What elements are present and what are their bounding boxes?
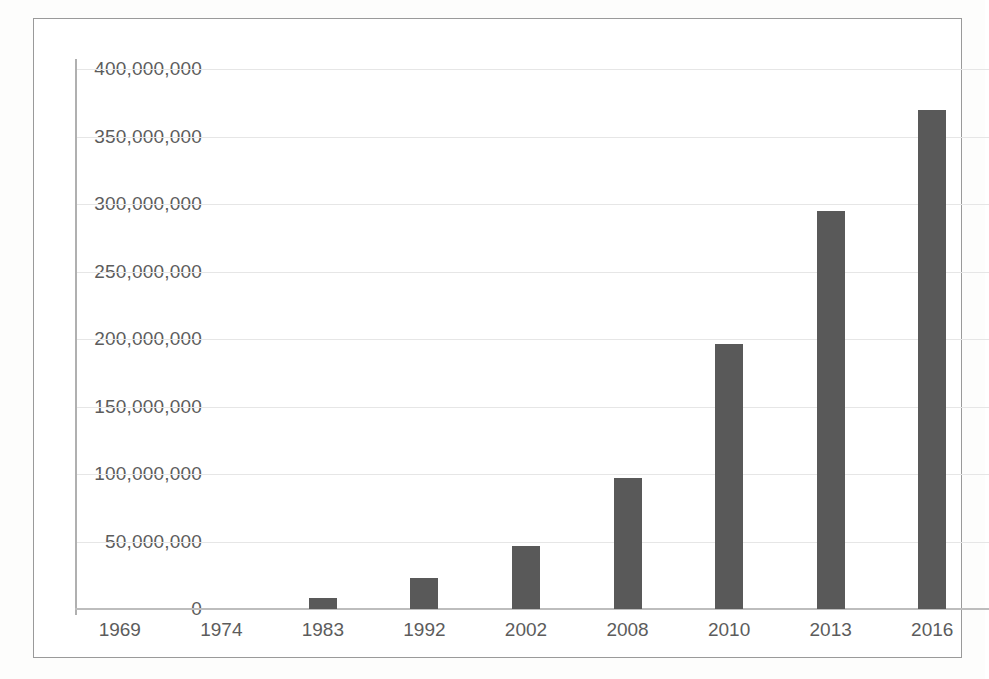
x-axis-tick-label: 1992 bbox=[384, 619, 464, 641]
x-axis-tick-label: 1969 bbox=[80, 619, 160, 641]
x-axis-tick-label: 1983 bbox=[283, 619, 363, 641]
x-axis-tick-label: 2013 bbox=[791, 619, 871, 641]
x-axis-tick-label: 2008 bbox=[588, 619, 668, 641]
chart-frame: 050,000,000100,000,000150,000,000200,000… bbox=[33, 18, 962, 658]
x-axis-tick-label: 2016 bbox=[892, 619, 972, 641]
x-axis-tick-label: 1974 bbox=[181, 619, 261, 641]
x-axis-tick-label: 2002 bbox=[486, 619, 566, 641]
x-axis-labels: 196919741983199220022008201020132016 bbox=[34, 19, 963, 659]
x-axis-tick-label: 2010 bbox=[689, 619, 769, 641]
